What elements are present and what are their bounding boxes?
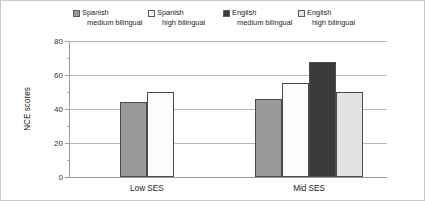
y-axis-tick-label: 0 bbox=[59, 173, 63, 182]
legend-label-line1: English bbox=[232, 8, 256, 17]
y-axis-tick-label: 80 bbox=[54, 37, 63, 46]
legend-item-spanish-high-bilingual: Spanishhigh bilingual bbox=[148, 8, 223, 27]
y-axis-minor-tick bbox=[67, 126, 69, 127]
bar bbox=[147, 92, 174, 177]
legend-swatch-english-medium-bilingual bbox=[223, 10, 230, 17]
legend-label-line1: English bbox=[307, 8, 331, 17]
legend-label-english-medium-bilingual: Englishmedium bilingual bbox=[232, 8, 292, 27]
y-axis-title: NCE scores bbox=[23, 87, 32, 131]
bar bbox=[282, 83, 309, 177]
y-axis-tick bbox=[65, 41, 69, 42]
y-axis-tick bbox=[65, 75, 69, 76]
legend-label-line2: high bilingual bbox=[307, 18, 355, 28]
legend-label-line2: medium bilingual bbox=[82, 18, 142, 28]
y-axis-tick bbox=[65, 143, 69, 144]
y-axis-minor-tick bbox=[67, 92, 69, 93]
legend-swatch-english-high-bilingual bbox=[298, 10, 305, 17]
legend-label-line1: Spanish bbox=[82, 8, 109, 17]
legend-item-english-high-bilingual: Englishhigh bilingual bbox=[298, 8, 373, 27]
chart-figure: Spanishmedium bilingual Spanishhigh bili… bbox=[0, 0, 425, 201]
bar bbox=[309, 62, 336, 177]
y-axis-minor-tick bbox=[67, 160, 69, 161]
y-axis-tick-label: 40 bbox=[54, 105, 63, 114]
gridline bbox=[69, 41, 387, 42]
bar bbox=[255, 99, 282, 177]
legend-swatch-spanish-high-bilingual bbox=[148, 10, 155, 17]
chart-legend: Spanishmedium bilingual Spanishhigh bili… bbox=[73, 8, 373, 32]
y-axis-tick-label: 60 bbox=[54, 71, 63, 80]
y-axis-tick bbox=[65, 109, 69, 110]
legend-label-line1: Spanish bbox=[157, 8, 184, 17]
y-axis-tick-label: 20 bbox=[54, 139, 63, 148]
legend-label-spanish-high-bilingual: Spanishhigh bilingual bbox=[157, 8, 205, 27]
y-axis-tick bbox=[65, 177, 69, 178]
legend-swatch-spanish-medium-bilingual bbox=[73, 10, 80, 17]
x-axis-category-label: Low SES bbox=[130, 184, 164, 193]
plot-area: 020406080 bbox=[69, 41, 387, 177]
x-axis-line bbox=[69, 177, 387, 178]
gridline bbox=[69, 75, 387, 76]
bar bbox=[120, 102, 147, 177]
legend-label-line2: high bilingual bbox=[157, 18, 205, 28]
bar bbox=[336, 92, 363, 177]
legend-label-english-high-bilingual: Englishhigh bilingual bbox=[307, 8, 355, 27]
legend-item-spanish-medium-bilingual: Spanishmedium bilingual bbox=[73, 8, 148, 27]
legend-label-line2: medium bilingual bbox=[232, 18, 292, 28]
legend-item-english-medium-bilingual: Englishmedium bilingual bbox=[223, 8, 298, 27]
x-axis-category-label: Mid SES bbox=[293, 184, 325, 193]
legend-label-spanish-medium-bilingual: Spanishmedium bilingual bbox=[82, 8, 142, 27]
y-axis-minor-tick bbox=[67, 58, 69, 59]
